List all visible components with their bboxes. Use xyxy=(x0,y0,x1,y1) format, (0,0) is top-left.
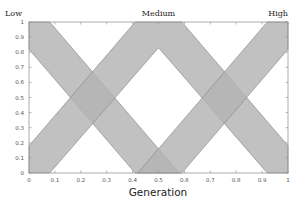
x-tick-label: 0.1 xyxy=(51,177,60,183)
y-tick-label: 0.7 xyxy=(15,64,24,70)
category-label-high: High xyxy=(268,9,288,18)
y-tick-label: 0.5 xyxy=(15,95,24,101)
category-labels: LowMediumHigh xyxy=(5,9,288,18)
x-axis-title: Generation xyxy=(129,186,188,198)
fuzzy-membership-chart: 00.10.20.30.40.50.60.70.80.91 00.10.20.3… xyxy=(0,0,303,202)
x-tick-label: 0.2 xyxy=(76,177,85,183)
x-tick-label: 0.6 xyxy=(180,177,189,183)
x-tick-label: 0.8 xyxy=(232,177,241,183)
x-tick-label: 0.4 xyxy=(128,177,137,183)
y-tick-label: 0.9 xyxy=(15,34,24,40)
y-tick-label: 0 xyxy=(21,170,25,176)
y-tick-label: 0.8 xyxy=(15,49,24,55)
membership-bands xyxy=(29,22,288,173)
y-tick-label: 0.2 xyxy=(15,140,24,146)
y-tick-label: 0.6 xyxy=(15,79,24,85)
y-tick-label: 0.1 xyxy=(15,155,24,161)
x-tick-label: 0 xyxy=(27,177,31,183)
x-tick-label: 0.5 xyxy=(154,177,163,183)
category-label-low: Low xyxy=(5,9,22,18)
category-label-medium: Medium xyxy=(142,9,176,18)
x-tick-label: 1 xyxy=(286,177,290,183)
x-tick-label: 0.9 xyxy=(258,177,267,183)
x-tick-label: 0.7 xyxy=(206,177,215,183)
x-tick-label: 0.3 xyxy=(102,177,111,183)
y-tick-label: 0.4 xyxy=(15,110,24,116)
y-tick-label: 0.3 xyxy=(15,125,24,131)
y-tick-label: 1 xyxy=(21,19,25,25)
